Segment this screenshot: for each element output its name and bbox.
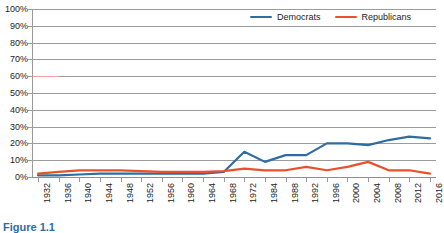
x-axis-tick bbox=[368, 177, 369, 182]
x-axis-tick bbox=[224, 177, 225, 182]
y-axis-label: 100% bbox=[5, 4, 28, 14]
x-axis-ticks bbox=[32, 177, 436, 182]
y-axis-label: 60% bbox=[10, 71, 28, 81]
x-axis-label: 2012 bbox=[413, 183, 423, 203]
x-axis-label: 1992 bbox=[310, 183, 320, 203]
y-axis-label: 30% bbox=[10, 122, 28, 132]
y-axis-label: 50% bbox=[10, 88, 28, 98]
x-axis-tick bbox=[265, 177, 266, 182]
x-axis-label: 1972 bbox=[248, 183, 258, 203]
x-axis-label: 1932 bbox=[42, 183, 52, 203]
x-axis-label: 1984 bbox=[269, 183, 279, 203]
series-line-republicans bbox=[38, 162, 430, 174]
x-axis-tick bbox=[79, 177, 80, 182]
x-axis-tick bbox=[162, 177, 163, 182]
x-axis-labels: 1932193619401944194819521956196019641968… bbox=[32, 183, 436, 213]
x-axis-tick bbox=[100, 177, 101, 182]
x-axis-label: 2008 bbox=[393, 183, 403, 203]
x-axis-label: 2000 bbox=[351, 183, 361, 203]
x-axis-label: 1964 bbox=[207, 183, 217, 203]
x-axis-label: 2004 bbox=[372, 183, 382, 203]
x-axis-tick bbox=[121, 177, 122, 182]
y-axis-label: 80% bbox=[10, 38, 28, 48]
figure-caption: Figure 1.1 bbox=[3, 221, 55, 233]
x-axis-label: 1948 bbox=[125, 183, 135, 203]
x-axis-tick bbox=[141, 177, 142, 182]
x-axis-tick bbox=[347, 177, 348, 182]
x-axis-label: 1956 bbox=[166, 183, 176, 203]
x-axis-label: 1940 bbox=[83, 183, 93, 203]
x-axis-tick bbox=[430, 177, 431, 182]
x-axis-label: 2016 bbox=[434, 183, 444, 203]
x-axis-label: 1996 bbox=[331, 183, 341, 203]
y-axis-label: 70% bbox=[10, 54, 28, 64]
x-axis-label: 1952 bbox=[145, 183, 155, 203]
x-axis-label: 1968 bbox=[228, 183, 238, 203]
y-axis-label: 40% bbox=[10, 105, 28, 115]
x-axis-tick bbox=[409, 177, 410, 182]
plot-area bbox=[32, 9, 436, 177]
x-axis-tick bbox=[59, 177, 60, 182]
x-axis-tick bbox=[306, 177, 307, 182]
y-axis-label: 10% bbox=[10, 155, 28, 165]
y-axis-label: 0% bbox=[15, 172, 28, 182]
x-axis-label: 1960 bbox=[186, 183, 196, 203]
x-axis-label: 1944 bbox=[104, 183, 114, 203]
series-plot bbox=[32, 9, 436, 177]
x-axis-tick bbox=[244, 177, 245, 182]
x-axis-tick bbox=[203, 177, 204, 182]
x-axis-label: 1936 bbox=[63, 183, 73, 203]
y-axis-label: 90% bbox=[10, 21, 28, 31]
y-axis-label: 20% bbox=[10, 138, 28, 148]
x-axis-tick bbox=[182, 177, 183, 182]
x-axis-tick bbox=[286, 177, 287, 182]
x-axis-tick bbox=[38, 177, 39, 182]
x-axis-tick bbox=[327, 177, 328, 182]
x-axis-tick bbox=[389, 177, 390, 182]
x-axis-label: 1988 bbox=[290, 183, 300, 203]
